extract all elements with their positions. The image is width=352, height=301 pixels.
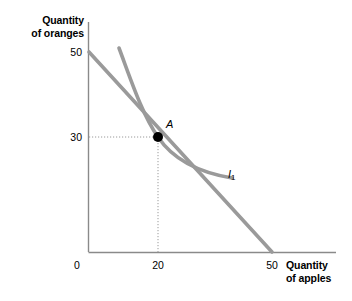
x-axis-title: Quantity of apples — [286, 259, 348, 284]
indifference-curve-figure: Quantity of oranges Quantity of apples 5… — [0, 0, 352, 301]
y-tick-label-30: 30 — [56, 131, 82, 143]
y-tick-label-50: 50 — [56, 46, 82, 58]
x-tick-label-50: 50 — [262, 259, 282, 271]
x-tick-label-20: 20 — [148, 259, 168, 271]
indifference-curve — [119, 48, 232, 178]
optimum-point-marker — [153, 132, 163, 142]
x-tick-label-0: 0 — [70, 259, 84, 271]
chart-plot-area — [0, 0, 352, 301]
budget-line — [89, 52, 272, 252]
curve-label-subscript: 1 — [231, 173, 235, 182]
optimum-point-label: A — [166, 118, 173, 130]
y-axis-title: Quantity of oranges — [8, 14, 84, 39]
indifference-curve-label: I1 — [228, 168, 236, 182]
